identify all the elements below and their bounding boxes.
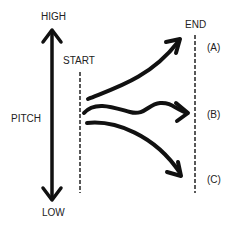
pitch-axis-arrow <box>43 30 61 200</box>
arrow-b-level <box>84 103 188 121</box>
pitch-label: PITCH <box>11 114 41 124</box>
outcome-c-label: (C) <box>207 175 221 185</box>
outcome-a-label: (A) <box>207 43 220 53</box>
high-label: HIGH <box>41 12 66 22</box>
end-label: END <box>185 20 206 30</box>
outcome-b-label: (B) <box>207 110 220 120</box>
arrow-c-falling <box>87 123 181 176</box>
low-label: LOW <box>42 208 65 218</box>
pitch-contour-diagram: HIGH START PITCH LOW END (A) (B) (C) <box>0 0 233 227</box>
arrow-a-rising <box>88 39 180 99</box>
start-label: START <box>63 56 95 66</box>
